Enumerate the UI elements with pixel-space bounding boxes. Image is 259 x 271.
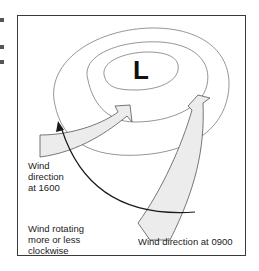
rotation-label: Wind rotating more or less clockwise <box>28 223 84 256</box>
wind-1600-arrow <box>40 105 132 157</box>
wind-0900-label: Wind direction at 0900 <box>138 236 233 247</box>
wind-1600-label: Wind direction at 1600 <box>28 160 64 193</box>
low-pressure-label: L <box>133 55 149 86</box>
wind-0900-arrow <box>138 95 210 240</box>
